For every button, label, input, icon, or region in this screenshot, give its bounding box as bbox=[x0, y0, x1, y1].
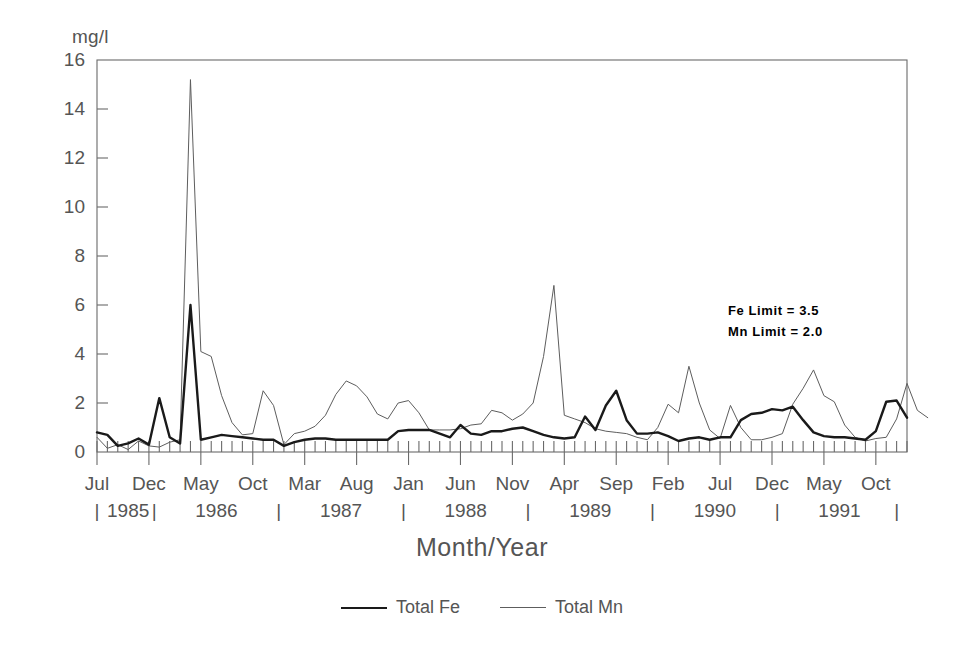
plot-frame bbox=[97, 60, 907, 452]
chart-figure: mg/l 0246810121416 JulDecMayOctMarAugJan… bbox=[0, 0, 964, 665]
y-axis-tick-label: 12 bbox=[45, 147, 85, 169]
y-axis-tick-label: 14 bbox=[45, 98, 85, 120]
x-axis-year-label: 1986 bbox=[195, 500, 237, 522]
x-axis-tick-label: Mar bbox=[288, 473, 321, 495]
y-axis-tick-label: 6 bbox=[45, 294, 85, 316]
x-axis-tick-label: Oct bbox=[238, 473, 268, 495]
x-axis-tick-label: Jul bbox=[708, 473, 732, 495]
x-axis-year-separator: | bbox=[152, 500, 157, 522]
x-axis-tick-label: Dec bbox=[755, 473, 789, 495]
y-axis-tick-label: 0 bbox=[45, 441, 85, 463]
y-axis-tick-label: 10 bbox=[45, 196, 85, 218]
x-axis-year-separator: | bbox=[525, 500, 530, 522]
x-axis-year-label: 1990 bbox=[694, 500, 736, 522]
limit-annotations: Fe Limit = 3.5 Mn Limit = 2.0 bbox=[728, 300, 823, 342]
x-axis-tick-label: Sep bbox=[599, 473, 633, 495]
x-axis-year-separator: | bbox=[95, 500, 100, 522]
fe-limit-annotation: Fe Limit = 3.5 bbox=[728, 300, 823, 321]
x-axis-tick-label: Jul bbox=[85, 473, 109, 495]
chart-legend: Total Fe Total Mn bbox=[0, 597, 964, 618]
y-axis-tick-label: 16 bbox=[45, 49, 85, 71]
x-axis-tick-label: May bbox=[183, 473, 219, 495]
legend-line-swatch-fe bbox=[341, 607, 387, 609]
x-axis-tick-label: Aug bbox=[340, 473, 374, 495]
x-axis-tick-label: Oct bbox=[861, 473, 891, 495]
x-axis-tick-label: Dec bbox=[132, 473, 166, 495]
x-axis-title: Month/Year bbox=[0, 533, 964, 562]
x-axis-year-separator: | bbox=[650, 500, 655, 522]
legend-item-total-fe: Total Fe bbox=[341, 597, 460, 618]
x-axis-ticks bbox=[97, 441, 907, 465]
legend-line-swatch-mn bbox=[500, 607, 546, 608]
legend-label-total-mn: Total Mn bbox=[555, 597, 623, 618]
x-axis-tick-label: May bbox=[806, 473, 842, 495]
x-axis-year-separator: | bbox=[775, 500, 780, 522]
x-axis-year-separator: | bbox=[894, 500, 899, 522]
x-axis-tick-label: Apr bbox=[550, 473, 580, 495]
y-axis-ticks bbox=[97, 109, 108, 403]
x-axis-year-label: 1988 bbox=[445, 500, 487, 522]
x-axis-tick-label: Nov bbox=[495, 473, 529, 495]
x-axis-year-label: 1987 bbox=[320, 500, 362, 522]
mn-limit-annotation: Mn Limit = 2.0 bbox=[728, 321, 823, 342]
x-axis-year-label: 1985 bbox=[107, 500, 149, 522]
y-axis-tick-label: 4 bbox=[45, 343, 85, 365]
x-axis-year-label: 1991 bbox=[818, 500, 860, 522]
legend-label-total-fe: Total Fe bbox=[396, 597, 460, 618]
y-axis-tick-label: 8 bbox=[45, 245, 85, 267]
legend-item-total-mn: Total Mn bbox=[500, 597, 623, 618]
x-axis-year-separator: | bbox=[276, 500, 281, 522]
y-axis-unit-label: mg/l bbox=[72, 26, 109, 48]
x-axis-year-label: 1989 bbox=[569, 500, 611, 522]
x-axis-tick-label: Jun bbox=[445, 473, 476, 495]
x-axis-year-separator: | bbox=[401, 500, 406, 522]
x-axis-tick-label: Feb bbox=[652, 473, 685, 495]
x-axis-tick-label: Jan bbox=[393, 473, 424, 495]
y-axis-tick-label: 2 bbox=[45, 392, 85, 414]
series-line-total-mn bbox=[97, 80, 928, 450]
